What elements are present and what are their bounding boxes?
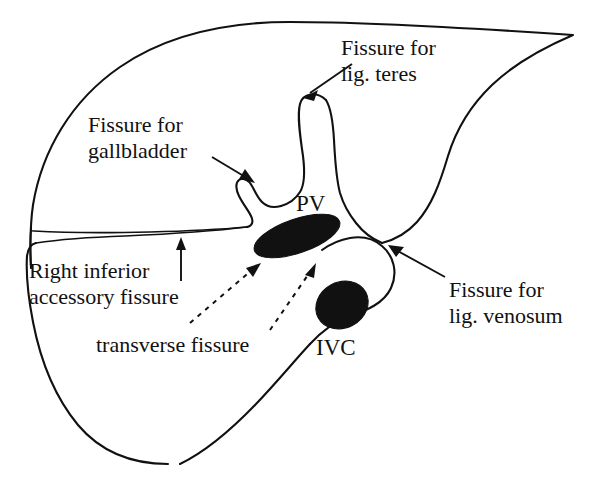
label-transverse-fissure: transverse fissure xyxy=(96,332,249,357)
transverse-fissure-leader-left-line xyxy=(190,270,252,323)
liver-caudate-inferior-edge xyxy=(180,344,310,464)
accessory-fissure-leader xyxy=(176,237,186,281)
fissure-for-lig-teres-cleft xyxy=(281,94,326,206)
liver-fissures-figure: Fissure for lig. teres Fissure for gallb… xyxy=(0,0,593,482)
label-lig-venosum-line2: lig. venosum xyxy=(449,303,563,328)
transverse-fissure-leader-left xyxy=(190,263,261,323)
transverse-fissure-right-arrowhead xyxy=(305,263,316,278)
accessory-fissure-arrowhead xyxy=(176,237,186,250)
lig-venosum-leader xyxy=(388,245,445,277)
label-lig-venosum-line1: Fissure for xyxy=(449,277,544,302)
gallbladder-arrowhead xyxy=(239,169,255,183)
inferior-vena-cava-blob xyxy=(307,272,376,338)
transverse-fissure-leader-right xyxy=(270,263,316,330)
label-accessory-fissure-line2: accessory fissure xyxy=(29,284,179,309)
label-gallbladder-line1: Fissure for xyxy=(88,112,183,137)
gallbladder-leader xyxy=(212,157,255,183)
transverse-fissure-leader-right-line xyxy=(270,272,310,330)
lig-venosum-leader-line xyxy=(396,250,445,277)
label-lig-teres-line2: lig. teres xyxy=(341,61,417,86)
label-lig-teres-line1: Fissure for xyxy=(341,35,436,60)
liver-diagram-svg: Fissure for lig. teres Fissure for gallb… xyxy=(0,0,593,482)
label-accessory-fissure-line1: Right inferior xyxy=(29,258,150,283)
label-gallbladder-line2: gallbladder xyxy=(88,138,188,163)
label-portal-vein: PV xyxy=(296,191,326,216)
transverse-fissure-left-arrowhead xyxy=(246,263,261,277)
fissure-for-gallbladder-notch xyxy=(236,179,281,227)
label-inferior-vena-cava: IVC xyxy=(316,335,356,360)
inferior-vena-cava-structure xyxy=(307,272,376,338)
